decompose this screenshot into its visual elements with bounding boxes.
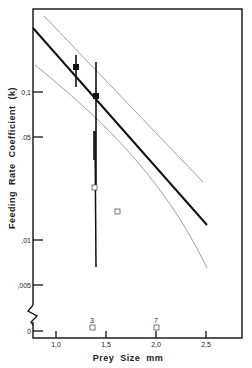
sample-size-label: 3	[90, 317, 94, 324]
plot-frame	[33, 9, 242, 338]
y-tick-label: 0	[27, 328, 31, 335]
upper-confidence-line	[44, 16, 203, 182]
x-axis-title: Prey Size mm	[93, 353, 164, 363]
y-tick-label: 0,1	[21, 89, 31, 96]
chart: 0,1 .05 ,01 ,005 0 1,0 1,5 2,0 2,5 Prey …	[0, 0, 252, 368]
x-ticks	[56, 331, 206, 338]
x-tick-label: 2,0	[151, 341, 161, 348]
data-point-open	[154, 325, 159, 330]
data-point-open	[90, 325, 95, 330]
y-axis-title: Feeding Rate Coefficient (k)	[7, 87, 17, 229]
x-tick-label: 1,5	[101, 341, 111, 348]
x-tick-label: 1,0	[51, 341, 61, 348]
x-tick-label: 2,5	[201, 341, 211, 348]
y-tick-label: ,01	[21, 237, 31, 244]
y-tick-label: ,005	[17, 282, 31, 289]
data-point-filled	[93, 93, 99, 99]
lower-confidence-line	[35, 65, 207, 268]
error-bar	[95, 131, 96, 267]
regression-line	[33, 28, 207, 225]
y-tick-label: .05	[21, 134, 31, 141]
data-point-filled	[73, 64, 79, 70]
sample-size-label: 7	[154, 317, 158, 324]
y-ticks	[33, 92, 43, 331]
data-point-open	[92, 185, 97, 190]
data-point-open	[115, 209, 120, 214]
